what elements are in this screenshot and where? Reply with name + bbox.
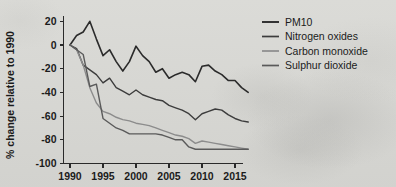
legend-item-label: PM10 [285,16,313,28]
chart-screenshot: % change relative to 1990 200-20-40-60-8… [0,0,396,187]
legend-item-label: Carbon monoxide [285,45,368,57]
legend-item-label: Nitrogen oxides [285,30,358,42]
legend-item-label: Sulphur dioxide [285,59,358,71]
chart-legend: PM10Nitrogen oxidesCarbon monoxideSulphu… [0,0,396,187]
